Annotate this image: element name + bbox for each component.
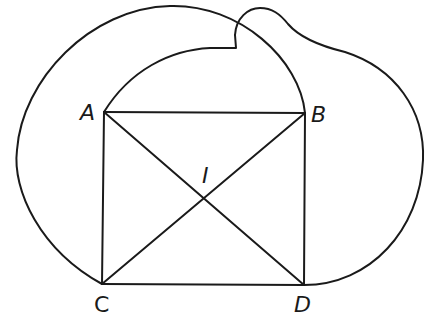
label-D: D (294, 292, 311, 317)
label-C: C (94, 292, 109, 317)
geometry-diagram: A B C D I (0, 0, 428, 326)
top-bump-and-right-arc (235, 8, 423, 285)
segment-DC (102, 284, 304, 285)
outer-left-arc (16, 6, 305, 284)
segment-AB (104, 112, 305, 113)
segment-BD (304, 113, 305, 285)
segment-CA (102, 112, 104, 284)
label-I: I (202, 163, 209, 188)
inner-arc (104, 35, 236, 112)
label-B: B (311, 102, 326, 127)
label-A: A (78, 100, 95, 125)
